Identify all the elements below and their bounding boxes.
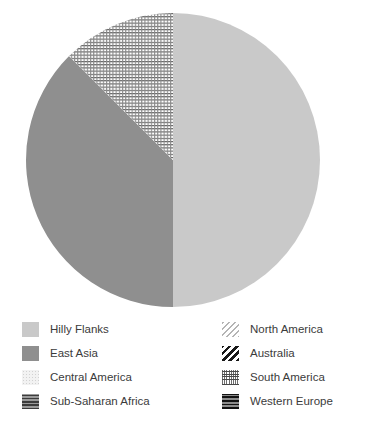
legend-swatch-icon-north-america bbox=[222, 322, 239, 337]
legend-column-right: North America Australia South America We… bbox=[222, 318, 366, 414]
legend-label-western-europe: Western Europe bbox=[250, 395, 333, 408]
pie-chart-svg bbox=[26, 13, 320, 307]
legend-item-south-america[interactable]: South America bbox=[222, 366, 366, 389]
pie-chart bbox=[26, 13, 320, 307]
legend-swatch-icon-australia bbox=[222, 346, 239, 361]
legend-label-central-america: Central America bbox=[50, 371, 132, 384]
legend-swatch-icon-hilly-flanks bbox=[22, 322, 39, 337]
legend-item-western-europe[interactable]: Western Europe bbox=[222, 390, 366, 413]
legend-swatch-icon-south-america bbox=[222, 370, 239, 385]
legend-item-sub-saharan-africa[interactable]: Sub-Saharan Africa bbox=[22, 390, 212, 413]
legend-swatch-icon-western-europe bbox=[222, 394, 239, 409]
legend-label-south-america: South America bbox=[250, 371, 325, 384]
legend-label-north-america: North America bbox=[250, 323, 323, 336]
legend-swatch-icon-east-asia bbox=[22, 346, 39, 361]
legend-item-hilly-flanks[interactable]: Hilly Flanks bbox=[22, 318, 212, 341]
chart-legend: Hilly Flanks East Asia Central America S… bbox=[0, 318, 366, 418]
legend-swatch-icon-central-america bbox=[22, 370, 39, 385]
legend-swatch-icon-sub-saharan-africa bbox=[22, 394, 39, 409]
legend-label-east-asia: East Asia bbox=[50, 347, 98, 360]
pie-slice-hilly-flanks bbox=[173, 13, 320, 307]
legend-item-central-america[interactable]: Central America bbox=[22, 366, 212, 389]
legend-item-east-asia[interactable]: East Asia bbox=[22, 342, 212, 365]
legend-item-australia[interactable]: Australia bbox=[222, 342, 366, 365]
legend-label-sub-saharan-africa: Sub-Saharan Africa bbox=[50, 395, 150, 408]
legend-item-north-america[interactable]: North America bbox=[222, 318, 366, 341]
legend-label-australia: Australia bbox=[250, 347, 295, 360]
legend-label-hilly-flanks: Hilly Flanks bbox=[50, 323, 109, 336]
legend-column-left: Hilly Flanks East Asia Central America S… bbox=[22, 318, 212, 414]
